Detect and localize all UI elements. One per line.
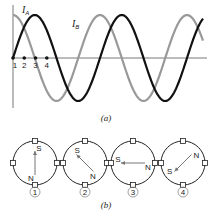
caption-a: (a) xyxy=(101,113,112,123)
rotor-2: SN2 xyxy=(61,139,110,198)
pole-square xyxy=(131,139,136,144)
rotor-4: SN4 xyxy=(159,139,208,198)
pole-label-s: S xyxy=(75,146,80,155)
pole-square xyxy=(55,161,60,166)
pole-square xyxy=(83,139,88,144)
pole-label-n: N xyxy=(145,163,151,172)
rotor-diagrams: SN1SN2SN3SN4 xyxy=(11,139,208,198)
time-point-3 xyxy=(34,56,38,60)
caption-b: (b) xyxy=(101,200,112,210)
pole-square xyxy=(33,139,38,144)
time-point-4 xyxy=(45,56,49,60)
arrow-head-icon xyxy=(121,161,125,165)
time-point-label-1: 1 xyxy=(13,61,18,70)
pole-label-n: N xyxy=(28,174,34,183)
step-number: 1 xyxy=(33,188,38,197)
pole-label-n: N xyxy=(194,151,200,160)
time-point-label-4: 4 xyxy=(45,61,50,70)
figure: 1234 IA IB (a) SN1SN2SN3SN4 (b) xyxy=(0,0,213,211)
pole-square xyxy=(153,161,158,166)
step-number: 2 xyxy=(83,188,88,197)
label-ib: IB xyxy=(71,18,79,30)
pole-label-s: S xyxy=(36,144,41,153)
waveform-plot: 1234 IA IB (a) xyxy=(11,4,207,123)
pole-label-s: S xyxy=(115,155,120,164)
time-point-2 xyxy=(22,56,26,60)
pole-square xyxy=(203,161,208,166)
pole-label-s: S xyxy=(167,167,172,176)
pole-square xyxy=(159,161,164,166)
step-number: 4 xyxy=(181,188,186,197)
pole-square xyxy=(61,161,66,166)
time-point-label-3: 3 xyxy=(33,61,38,70)
rotor-3: SN3 xyxy=(109,139,158,198)
pole-square xyxy=(181,139,186,144)
time-point-1 xyxy=(11,56,15,60)
rotor-1: SN1 xyxy=(11,139,60,198)
pole-square xyxy=(109,161,114,166)
pole-label-n: N xyxy=(90,172,96,181)
step-number: 3 xyxy=(131,188,136,197)
label-ia: IA xyxy=(21,4,29,16)
time-point-label-2: 2 xyxy=(22,61,27,70)
pole-square xyxy=(11,161,16,166)
